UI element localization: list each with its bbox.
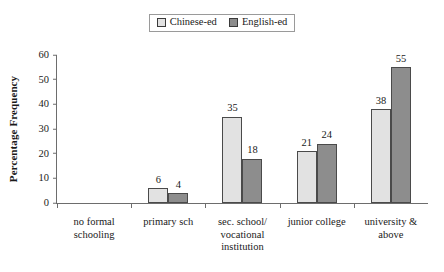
legend-label-chinese-ed: Chinese-ed — [170, 17, 217, 28]
x-axis-category-label: sec. school/vocationalinstitution — [205, 216, 279, 254]
bar-group: 2124junior college — [280, 55, 354, 203]
bar-slot: 35 — [222, 55, 242, 203]
bar-slot: 18 — [242, 55, 262, 203]
bar-group: no formalschooling — [57, 55, 131, 203]
y-tick-label: 60 — [39, 50, 54, 61]
x-axis-category-label-line: university & — [354, 216, 428, 229]
bar-value-label: 35 — [227, 103, 238, 114]
bar-value-label: 38 — [376, 96, 387, 107]
x-axis-category-label-line: no formal — [57, 216, 131, 229]
x-axis-category-label: no formalschooling — [57, 216, 131, 241]
bar-value-label: 55 — [396, 54, 407, 65]
y-tick-label: 40 — [39, 99, 54, 110]
bar-slot: 4 — [168, 55, 188, 203]
y-axis-title: Percentage Frequency — [6, 55, 20, 203]
bar-slot: 55 — [391, 55, 411, 203]
bar-slot: 38 — [371, 55, 391, 203]
x-tick-mark — [131, 203, 132, 208]
y-tick-20: 20 — [39, 148, 58, 159]
x-axis-category-label-line: vocational — [205, 229, 279, 242]
x-axis-category-label: primary sch — [131, 216, 205, 229]
y-tick-0: 0 — [44, 198, 57, 209]
bar-value-label: 6 — [156, 175, 161, 186]
bar-english-ed[interactable] — [391, 67, 411, 203]
bar-value-label: 21 — [301, 138, 312, 149]
plot-area: 0102030405060 no formalschooling64primar… — [57, 55, 428, 203]
y-tick-30: 30 — [39, 124, 58, 135]
bar-english-ed[interactable] — [242, 159, 262, 203]
bar-slot: 24 — [317, 55, 337, 203]
bar-value-label: 4 — [176, 180, 181, 191]
x-axis-line — [56, 203, 428, 204]
bar-value-label: 18 — [247, 145, 258, 156]
bar-value-label: 24 — [321, 130, 332, 141]
x-axis-category-label-line: junior college — [280, 216, 354, 229]
y-tick-label: 30 — [39, 124, 54, 135]
bar-chinese-ed[interactable] — [222, 117, 242, 203]
y-tick-40: 40 — [39, 99, 58, 110]
legend-box: Chinese-ed English-ed — [149, 14, 296, 32]
legend-label-english-ed: English-ed — [242, 17, 288, 28]
bar-pair: 3518 — [222, 55, 262, 203]
bar-slot — [94, 55, 114, 203]
bar-slot — [74, 55, 94, 203]
bar-chinese-ed[interactable] — [148, 188, 168, 203]
bar-group: 64primary sch — [131, 55, 205, 203]
y-tick-50: 50 — [39, 74, 58, 85]
x-tick-mark — [354, 203, 355, 208]
x-tick-mark — [205, 203, 206, 208]
legend-entry-chinese-ed: Chinese-ed — [157, 17, 217, 28]
chart-legend: Chinese-ed English-ed — [0, 14, 444, 32]
legend-swatch-chinese-ed — [157, 18, 166, 27]
x-axis-category-label-line: institution — [205, 241, 279, 254]
x-axis-category-label: university &above — [354, 216, 428, 241]
bar-english-ed[interactable] — [168, 193, 188, 203]
y-tick-10: 10 — [39, 173, 58, 184]
bar-pair: 2124 — [297, 55, 337, 203]
y-tick-label: 20 — [39, 148, 54, 159]
y-tick-label: 50 — [39, 74, 54, 85]
bar-pair: 3855 — [371, 55, 411, 203]
x-axis-category-label-line: schooling — [57, 229, 131, 242]
bar-english-ed[interactable] — [317, 144, 337, 203]
x-axis-category-label-line: primary sch — [131, 216, 205, 229]
x-axis-category-label: junior college — [280, 216, 354, 229]
bar-pair: 64 — [148, 55, 188, 203]
x-axis-category-label-line: above — [354, 229, 428, 242]
bar-pair — [74, 55, 114, 203]
legend-entry-english-ed: English-ed — [229, 17, 288, 28]
x-tick-mark — [57, 203, 58, 208]
bar-group: 3855university &above — [354, 55, 428, 203]
x-tick-mark — [280, 203, 281, 208]
x-axis-category-label-line: sec. school/ — [205, 216, 279, 229]
y-tick-label: 0 — [44, 198, 53, 209]
bar-slot: 6 — [148, 55, 168, 203]
bar-slot: 21 — [297, 55, 317, 203]
bar-chinese-ed[interactable] — [297, 151, 317, 203]
y-tick-label: 10 — [39, 173, 54, 184]
legend-swatch-english-ed — [229, 18, 238, 27]
bar-chinese-ed[interactable] — [371, 109, 391, 203]
y-tick-60: 60 — [39, 50, 58, 61]
bar-group: 3518sec. school/vocationalinstitution — [205, 55, 279, 203]
